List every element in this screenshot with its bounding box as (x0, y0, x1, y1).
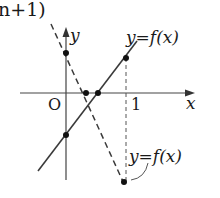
x-axis (20, 90, 195, 97)
origin-label: O (48, 95, 61, 114)
y-axis (63, 27, 70, 180)
tick-label-1: 1 (131, 95, 141, 114)
dashed-line-label: y=f(x) (128, 146, 182, 166)
solid-line-label: y=f(x) (125, 27, 179, 47)
point-x-intercept-dashed (83, 90, 89, 96)
point-x-intercept-solid (95, 90, 101, 96)
x-axis-label: x (186, 93, 196, 113)
header-fragment: n+1) (0, 0, 46, 20)
point-y-intercept-dashed (63, 50, 69, 56)
y-axis-arrow-icon (63, 27, 70, 37)
y-axis-label: y (69, 25, 80, 45)
function-graph: n+1) y x O 1 y=f(x) y=f(x) (0, 0, 220, 198)
point-y-intercept-solid (63, 132, 69, 138)
point-x1-dashed (121, 179, 127, 185)
point-x1-solid (123, 55, 129, 61)
